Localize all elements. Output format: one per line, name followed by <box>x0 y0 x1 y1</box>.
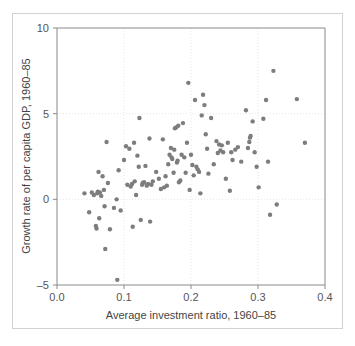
data-point <box>254 165 258 169</box>
data-point <box>221 150 225 154</box>
data-point <box>181 121 185 125</box>
data-point <box>102 204 106 208</box>
data-point <box>275 202 279 206</box>
data-point <box>165 183 169 187</box>
data-point <box>139 218 143 222</box>
data-point <box>189 153 193 157</box>
data-point <box>201 93 205 97</box>
data-point <box>132 141 136 145</box>
data-point <box>115 278 119 282</box>
data-point <box>118 208 122 212</box>
data-point <box>246 146 250 150</box>
data-point <box>236 145 240 149</box>
data-point <box>212 162 216 166</box>
data-point <box>250 119 254 123</box>
data-point <box>182 155 186 159</box>
data-point <box>127 147 131 151</box>
data-point <box>131 225 135 229</box>
data-points <box>82 69 307 282</box>
data-point <box>264 98 268 102</box>
data-point <box>97 216 101 220</box>
data-point <box>197 170 201 174</box>
data-point <box>133 179 137 183</box>
data-point <box>193 98 197 102</box>
data-point <box>268 213 272 217</box>
data-point <box>106 181 110 185</box>
data-point <box>228 189 232 193</box>
y-axis-title: Growth rate of per capita GDP, 1960–85 <box>20 58 32 253</box>
data-point <box>108 227 112 231</box>
data-point <box>229 150 233 154</box>
scatter-plot: 0.00.10.20.30.4 –50510 Average investmen… <box>0 0 355 346</box>
data-point <box>103 247 107 251</box>
data-point <box>271 69 275 73</box>
data-point <box>157 177 161 181</box>
data-point <box>239 159 243 163</box>
data-point <box>100 174 104 178</box>
data-point <box>161 137 165 141</box>
data-point <box>147 136 151 140</box>
data-point <box>214 139 218 143</box>
data-point <box>183 171 187 175</box>
x-tick-labels: 0.00.10.20.30.4 <box>49 291 332 303</box>
data-point <box>142 180 146 184</box>
data-point <box>102 188 106 192</box>
figure-container: 0.00.10.20.30.4 –50510 Average investmen… <box>0 0 355 346</box>
data-point <box>134 193 138 197</box>
data-point <box>256 185 260 189</box>
data-point <box>303 141 307 145</box>
data-point <box>104 140 108 144</box>
data-point <box>190 163 194 167</box>
data-point <box>206 171 210 175</box>
data-point <box>204 132 208 136</box>
data-point <box>244 108 248 112</box>
y-tick-label: 0 <box>43 193 49 205</box>
data-point <box>224 177 228 181</box>
y-tick-label: 5 <box>43 108 49 120</box>
data-point <box>252 150 256 154</box>
data-point <box>200 113 204 117</box>
data-point <box>137 165 141 169</box>
data-point <box>148 219 152 223</box>
data-point <box>137 116 141 120</box>
data-point <box>87 210 91 214</box>
data-point <box>112 206 116 210</box>
data-point <box>171 171 175 175</box>
data-point <box>198 191 202 195</box>
x-tick-label: 0.4 <box>317 291 332 303</box>
x-tick-label: 0.1 <box>116 291 131 303</box>
data-point <box>295 97 299 101</box>
data-point <box>178 178 182 182</box>
data-point <box>202 103 206 107</box>
data-point <box>166 162 170 166</box>
data-point <box>122 158 126 162</box>
data-point <box>96 170 100 174</box>
data-point <box>135 153 139 157</box>
data-point <box>205 147 209 151</box>
x-axis-title: Average investment ratio, 1960–85 <box>106 309 276 321</box>
data-point <box>163 174 167 178</box>
data-point <box>220 143 224 147</box>
axis-ticks <box>53 28 325 289</box>
data-point <box>114 197 118 201</box>
x-tick-label: 0.2 <box>183 291 198 303</box>
data-point <box>176 123 180 127</box>
x-tick-label: 0.3 <box>250 291 265 303</box>
data-point <box>247 140 251 144</box>
data-point <box>226 141 230 145</box>
data-point <box>170 157 174 161</box>
data-point <box>99 194 103 198</box>
data-point <box>187 188 191 192</box>
data-point <box>186 81 190 85</box>
y-tick-labels: –50510 <box>37 22 49 291</box>
data-point <box>82 191 86 195</box>
data-point <box>175 159 179 163</box>
data-point <box>230 158 234 162</box>
data-point <box>94 226 98 230</box>
data-point <box>151 179 155 183</box>
data-point <box>261 117 265 121</box>
data-point <box>143 164 147 168</box>
data-point <box>154 170 158 174</box>
x-tick-label: 0.0 <box>49 291 64 303</box>
data-point <box>248 134 252 138</box>
